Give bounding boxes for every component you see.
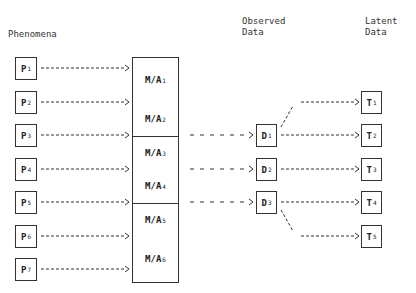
box-label: T xyxy=(366,165,371,175)
method-box-ma2: M/A2 xyxy=(132,102,179,137)
box-subscript: 4 xyxy=(27,166,31,173)
method-box-ma3: M/A3 xyxy=(132,136,179,170)
phenomenon-box-p3: P3 xyxy=(15,124,37,147)
box-subscript: 2 xyxy=(268,166,272,173)
phenomenon-box-p7: P7 xyxy=(15,258,37,281)
method-box-ma4: M/A4 xyxy=(132,169,179,204)
observed-box-d3: D3 xyxy=(256,191,277,214)
box-subscript: 7 xyxy=(27,266,31,273)
box-subscript: 3 xyxy=(268,199,272,206)
box-label: P xyxy=(21,232,26,242)
latent-box-t5: T5 xyxy=(361,225,382,248)
observed-box-d2: D2 xyxy=(256,158,277,181)
phenomena-arrows xyxy=(41,68,125,269)
latent-box-t3: T3 xyxy=(361,158,382,181)
phenomenon-box-p2: P2 xyxy=(15,91,37,114)
box-subscript: 4 xyxy=(162,183,166,190)
box-label: M/A xyxy=(145,181,161,191)
box-label: P xyxy=(21,265,26,275)
box-label: P xyxy=(21,98,26,108)
box-label: P xyxy=(21,198,26,208)
box-label: T xyxy=(366,131,371,141)
box-subscript: 4 xyxy=(373,199,377,206)
box-label: M/A xyxy=(145,148,161,158)
connector-arrows xyxy=(0,0,416,293)
box-label: M/A xyxy=(145,114,161,124)
box-label: M/A xyxy=(145,215,161,225)
box-subscript: 6 xyxy=(162,256,166,263)
box-subscript: 6 xyxy=(27,233,31,240)
phenomenon-box-p1: P1 xyxy=(15,57,37,80)
method-box-ma6: M/A6 xyxy=(132,236,179,283)
box-subscript: 2 xyxy=(373,132,377,139)
box-label: D xyxy=(261,131,266,141)
method-box-ma5: M/A5 xyxy=(132,203,179,237)
box-label: D xyxy=(261,165,266,175)
phenomenon-box-p5: P5 xyxy=(15,191,37,214)
latent-box-t1: T1 xyxy=(361,91,382,114)
box-subscript: 3 xyxy=(27,132,31,139)
phenomenon-box-p6: P6 xyxy=(15,225,37,248)
box-subscript: 5 xyxy=(162,217,166,224)
box-subscript: 5 xyxy=(27,199,31,206)
box-subscript: 3 xyxy=(162,150,166,157)
box-subscript: 3 xyxy=(373,166,377,173)
box-subscript: 1 xyxy=(373,99,377,106)
box-label: T xyxy=(366,98,371,108)
latent-box-t4: T4 xyxy=(361,191,382,214)
box-subscript: 1 xyxy=(27,65,31,72)
box-subscript: 1 xyxy=(162,77,166,84)
box-subscript: 2 xyxy=(162,116,166,123)
box-label: M/A xyxy=(145,254,161,264)
box-label: P xyxy=(21,131,26,141)
box-label: D xyxy=(261,198,266,208)
phenomenon-box-p4: P4 xyxy=(15,158,37,181)
box-label: T xyxy=(366,232,371,242)
method-box-ma1: M/A1 xyxy=(132,57,179,103)
latent-box-t2: T2 xyxy=(361,124,382,147)
box-subscript: 5 xyxy=(373,233,377,240)
box-label: T xyxy=(366,198,371,208)
box-label: P xyxy=(21,64,26,74)
box-label: P xyxy=(21,165,26,175)
observed-box-d1: D1 xyxy=(256,124,277,147)
box-subscript: 2 xyxy=(27,99,31,106)
box-subscript: 1 xyxy=(268,132,272,139)
box-label: M/A xyxy=(145,75,161,85)
